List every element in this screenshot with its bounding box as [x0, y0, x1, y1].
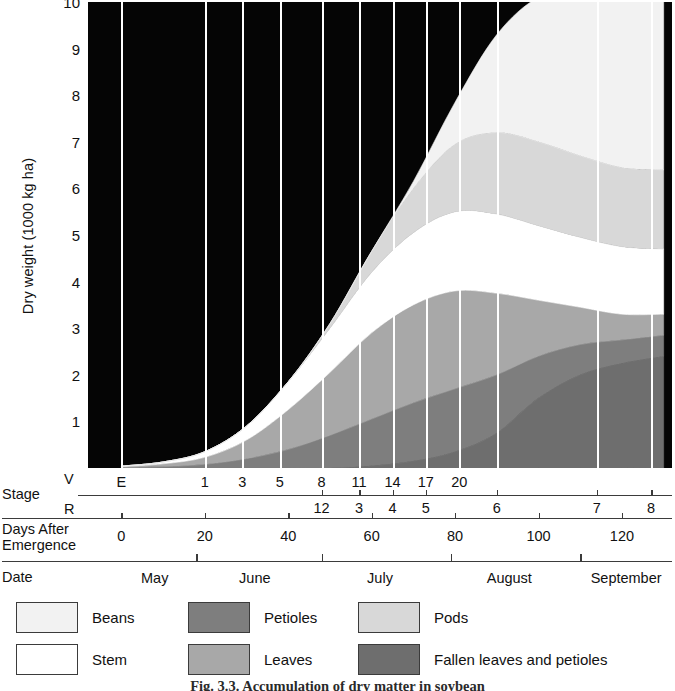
stage-r-label: R — [64, 502, 74, 517]
r-stage-label-12: 12 — [314, 500, 330, 516]
days-row-label-line1: Days After — [2, 522, 69, 537]
days-tick-label-120: 120 — [610, 528, 634, 544]
figure-caption: Fig. 3.3. Accumulation of dry matter in … — [0, 678, 675, 691]
y-tick-1: 1 — [72, 413, 80, 430]
y-tick-5: 5 — [72, 227, 80, 244]
month-label-july: July — [367, 570, 393, 586]
r-stage-label-5: 5 — [422, 500, 430, 516]
days-row-label-line2: Emergence — [2, 538, 76, 553]
v-stage-label-1: 1 — [201, 474, 209, 490]
figure-container: Dry weight (1000 kg ha) 10987654321 Stag… — [0, 0, 675, 691]
legend-label-leaves: Leaves — [264, 651, 312, 668]
legend-label-stem: Stem — [92, 651, 127, 668]
legend-swatch-petioles — [188, 602, 250, 633]
month-label-may: May — [141, 570, 168, 586]
legend-item-beans: Beans — [16, 602, 135, 633]
gridline-v20 — [459, 2, 461, 468]
v-stage-label-20: 20 — [451, 474, 467, 490]
r-stage-label-8: 8 — [647, 500, 655, 516]
legend-label-petioles: Petioles — [264, 609, 317, 626]
legend-item-leaves: Leaves — [188, 644, 312, 675]
gridline-v14 — [393, 2, 395, 468]
y-tick-9: 9 — [72, 40, 80, 57]
days-tick-label-20: 20 — [197, 528, 213, 544]
month-label-september: September — [591, 570, 662, 586]
r-stage-label-4: 4 — [388, 500, 396, 516]
legend-item-fallen-leaves-and-petioles: Fallen leaves and petioles — [358, 644, 607, 675]
legend-label-pods: Pods — [434, 609, 468, 626]
r-stage-label-3: 3 — [355, 500, 363, 516]
gridline-v17 — [426, 2, 428, 468]
gridline-v3 — [242, 2, 244, 468]
y-axis-label: Dry weight (1000 kg ha) — [20, 21, 36, 451]
y-tick-2: 2 — [72, 366, 80, 383]
stage-bottom-rule — [2, 518, 672, 519]
y-tick-7: 7 — [72, 133, 80, 150]
y-tick-8: 8 — [72, 87, 80, 104]
days-bottom-rule — [2, 561, 672, 562]
stacked-area-plot — [88, 2, 672, 468]
gridline-vE — [121, 2, 123, 468]
y-tick-10: 10 — [63, 0, 80, 11]
legend-item-petioles: Petioles — [188, 602, 317, 633]
legend-swatch-beans — [16, 602, 78, 633]
y-tick-3: 3 — [72, 320, 80, 337]
gridline-r6 — [497, 2, 499, 468]
v-stage-label-E: E — [117, 474, 127, 490]
legend-swatch-fallen-leaves-and-petioles — [358, 644, 420, 675]
v-stage-label-11: 11 — [352, 474, 367, 490]
y-tick-4: 4 — [72, 273, 80, 290]
y-tick-6: 6 — [72, 180, 80, 197]
area-series-svg — [88, 2, 672, 468]
legend-label-fallen-leaves-and-petioles: Fallen leaves and petioles — [434, 651, 607, 668]
days-tick-label-80: 80 — [447, 528, 463, 544]
stage-mid-rule — [78, 495, 672, 496]
r-stage-label-6: 6 — [493, 500, 501, 516]
days-tick-label-100: 100 — [526, 528, 550, 544]
v-stage-label-8: 8 — [318, 474, 326, 490]
gridline-r7 — [597, 2, 599, 468]
gridline-v11 — [359, 2, 361, 468]
v-stage-label-14: 14 — [384, 474, 400, 490]
v-stage-label-5: 5 — [276, 474, 284, 490]
days-tick-label-60: 60 — [364, 528, 380, 544]
gridline-r8 — [651, 2, 653, 468]
legend-swatch-stem — [16, 644, 78, 675]
y-axis-tick-labels: 10987654321 — [40, 0, 84, 470]
r-stage-label-7: 7 — [593, 500, 601, 516]
legend-item-stem: Stem — [16, 644, 127, 675]
legend-swatch-leaves — [188, 644, 250, 675]
gridline-v5 — [280, 2, 282, 468]
gridline-v8 — [322, 2, 324, 468]
stage-v-label: V — [64, 472, 74, 487]
v-stage-label-3: 3 — [238, 474, 246, 490]
days-tick-label-0: 0 — [117, 528, 125, 544]
legend: BeansStemPetiolesLeavesPodsFallen leaves… — [0, 598, 675, 676]
gridline-v1 — [205, 2, 207, 468]
stage-row-label: Stage — [2, 487, 40, 502]
legend-label-beans: Beans — [92, 609, 135, 626]
days-tick-label-40: 40 — [280, 528, 296, 544]
month-label-june: June — [239, 570, 270, 586]
legend-item-pods: Pods — [358, 602, 468, 633]
v-stage-label-17: 17 — [418, 474, 434, 490]
month-label-august: August — [487, 570, 532, 586]
date-row-label: Date — [2, 570, 33, 585]
legend-swatch-pods — [358, 602, 420, 633]
